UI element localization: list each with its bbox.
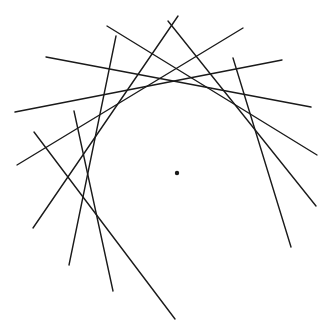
line-segment-10 [34,132,175,319]
line-segment-2 [46,57,311,107]
line-segment-8 [233,58,291,247]
line-segment-5 [17,28,243,165]
line-segment-1 [107,26,317,155]
line-segment-9 [74,111,113,291]
tangent-lines-group [15,16,317,319]
line-segment-7 [168,21,316,206]
line-segment-6 [33,16,178,228]
center-point [175,171,179,175]
line-diagram [0,0,330,333]
